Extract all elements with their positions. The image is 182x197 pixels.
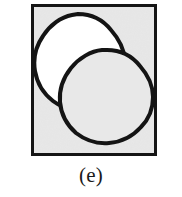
- figure-panel-frame: [31, 4, 157, 156]
- figure-container: (e): [0, 0, 182, 197]
- overlapping-circles-diagram: [31, 4, 157, 156]
- right-circle-shape: [60, 50, 153, 143]
- figure-caption: (e): [0, 160, 182, 190]
